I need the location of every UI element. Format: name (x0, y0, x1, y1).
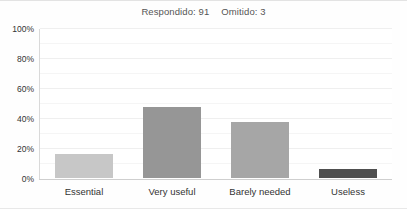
minor-gridline-70 (40, 73, 392, 74)
y-tick-label-0: 0% (0, 174, 34, 184)
x-axis-baseline (39, 179, 392, 180)
bar-useless (319, 169, 377, 179)
major-gridline-80 (40, 58, 392, 59)
major-gridline-100 (40, 28, 392, 29)
y-tick-label-60: 60% (0, 84, 34, 94)
x-category-label-very-useful: Very useful (128, 186, 216, 198)
x-category-label-barely-needed: Barely needed (216, 186, 304, 198)
x-category-label-essential: Essential (40, 186, 128, 198)
skipped-count-label: Omitido: 3 (221, 6, 265, 17)
y-axis-line (39, 29, 40, 179)
y-tick-label-40: 40% (0, 114, 34, 124)
chart-title: Respondido: 91Omitido: 3 (0, 6, 407, 17)
y-tick-label-20: 20% (0, 144, 34, 154)
plot-area (40, 29, 392, 179)
bar-essential (55, 154, 113, 179)
major-gridline-40 (40, 118, 392, 119)
major-gridline-60 (40, 88, 392, 89)
bar-very-useful (143, 107, 201, 178)
minor-gridline-30 (40, 133, 392, 134)
bar-barely-needed (231, 122, 289, 178)
y-tick-label-80: 80% (0, 54, 34, 64)
minor-gridline-90 (40, 43, 392, 44)
y-tick-label-100: 100% (0, 24, 34, 34)
minor-gridline-50 (40, 103, 392, 104)
x-category-label-useless: Useless (304, 186, 392, 198)
survey-results-chart: Respondido: 91Omitido: 3 0%20%40%60%80%1… (0, 0, 407, 209)
answered-count-label: Respondido: 91 (141, 6, 209, 17)
major-gridline-20 (40, 148, 392, 149)
